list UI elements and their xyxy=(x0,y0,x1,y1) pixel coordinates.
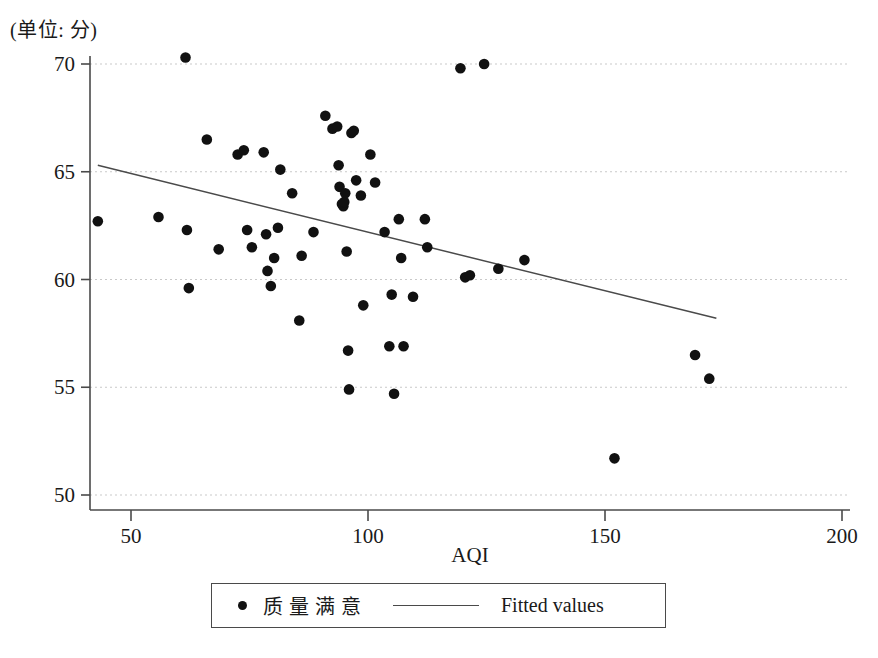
legend-label-quality-satisfaction: 质量满意 xyxy=(263,591,367,620)
chart-legend: 质量满意 Fitted values xyxy=(211,583,666,628)
scatter-point xyxy=(384,341,395,352)
scatter-plot-figure: (单位: 分) 5055606570 50100150200 AQI 质量满意 … xyxy=(0,0,878,658)
scatter-point xyxy=(370,177,381,188)
scatter-point xyxy=(348,126,359,137)
scatter-point xyxy=(239,145,250,156)
x-axis-ticks-group: 50100150200 xyxy=(121,510,858,548)
scatter-point xyxy=(294,315,305,326)
scatter-point xyxy=(296,250,307,261)
scatter-point xyxy=(465,270,476,281)
legend-label-fitted-values: Fitted values xyxy=(501,594,604,617)
x-tick-label-200: 200 xyxy=(826,524,858,548)
axis-lines-group xyxy=(90,56,850,510)
scatter-point xyxy=(341,246,352,257)
scatter-point xyxy=(258,147,269,158)
scatter-point xyxy=(273,222,284,233)
legend-dot-icon xyxy=(238,601,247,610)
y-tick-label-70: 70 xyxy=(54,52,75,76)
scatter-point xyxy=(394,214,405,225)
scatter-point xyxy=(358,300,369,311)
scatter-point xyxy=(479,59,490,70)
scatter-point xyxy=(184,283,195,294)
scatter-point xyxy=(398,341,409,352)
scatter-point xyxy=(704,373,715,384)
y-axis-ticks-group: 5055606570 xyxy=(54,52,90,507)
scatter-point xyxy=(379,227,390,238)
legend-line-icon xyxy=(393,605,479,606)
y-tick-label-65: 65 xyxy=(54,160,75,184)
scatter-point xyxy=(308,227,319,238)
fitted-values-line-group xyxy=(98,165,717,318)
scatter-point xyxy=(242,225,253,236)
scatter-point xyxy=(690,350,701,361)
scatter-point xyxy=(332,121,343,132)
scatter-point xyxy=(202,134,213,145)
scatter-point xyxy=(182,225,193,236)
scatter-point xyxy=(180,52,191,63)
scatter-point xyxy=(153,212,164,223)
scatter-point xyxy=(213,244,224,255)
scatter-point xyxy=(261,229,272,240)
x-tick-label-150: 150 xyxy=(589,524,621,548)
scatter-point xyxy=(420,214,431,225)
legend-entry-scatter: 质量满意 xyxy=(212,584,367,627)
scatter-point xyxy=(386,289,397,300)
scatter-point xyxy=(247,242,258,253)
fitted-values-line xyxy=(98,165,717,318)
plot-canvas: 5055606570 50100150200 AQI xyxy=(0,0,878,658)
scatter-point xyxy=(266,281,277,292)
x-axis-title: AQI xyxy=(451,543,488,567)
scatter-point xyxy=(93,216,104,227)
scatter-point xyxy=(609,453,620,464)
scatter-point xyxy=(365,149,376,160)
scatter-point xyxy=(262,266,273,277)
scatter-point xyxy=(389,388,400,399)
scatter-point xyxy=(333,160,344,171)
legend-entry-fitted: Fitted values xyxy=(367,584,604,627)
x-tick-label-50: 50 xyxy=(121,524,142,548)
y-tick-label-50: 50 xyxy=(54,483,75,507)
scatter-point xyxy=(493,263,504,274)
scatter-point xyxy=(275,164,286,175)
scatter-point xyxy=(455,63,466,74)
scatter-point xyxy=(343,345,354,356)
y-tick-label-55: 55 xyxy=(54,375,75,399)
scatter-point xyxy=(422,242,433,253)
scatter-point xyxy=(396,253,407,264)
scatter-point xyxy=(356,190,367,201)
scatter-points-group xyxy=(93,52,715,463)
scatter-point xyxy=(269,253,280,264)
scatter-point xyxy=(320,110,331,121)
scatter-point xyxy=(351,175,362,186)
scatter-point xyxy=(519,255,530,266)
scatter-point xyxy=(408,291,419,302)
scatter-point xyxy=(344,384,355,395)
scatter-point xyxy=(287,188,298,199)
x-tick-label-100: 100 xyxy=(352,524,384,548)
scatter-point xyxy=(340,188,351,199)
y-tick-label-60: 60 xyxy=(54,268,75,292)
